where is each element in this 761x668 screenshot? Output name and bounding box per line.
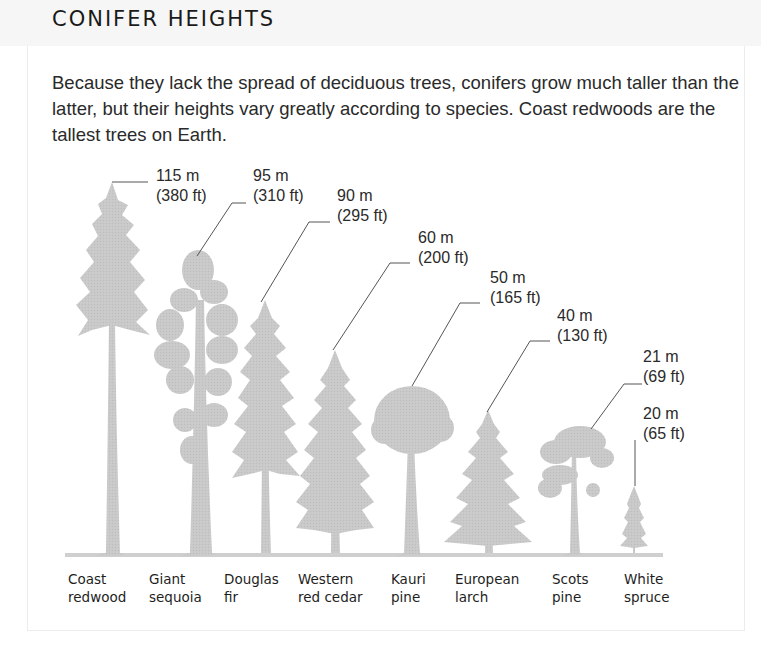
species-name-line2: fir <box>224 588 279 606</box>
tree-scots-pine-icon <box>538 426 614 556</box>
leader-scots-pine <box>591 384 642 429</box>
species-name-european-larch: European larch <box>455 570 519 606</box>
leader-european-larch <box>487 341 550 412</box>
height-feet: (65 ft) <box>643 424 685 444</box>
species-name-line1: Douglas <box>224 570 279 588</box>
height-feet: (69 ft) <box>643 367 685 387</box>
height-label-kauri-pine: 50 m (165 ft) <box>490 268 541 308</box>
height-metres: 95 m <box>253 166 304 186</box>
height-label-white-spruce: 20 m (65 ft) <box>643 404 685 444</box>
species-name-douglas-fir: Douglas fir <box>224 570 279 606</box>
species-name-line2: redwood <box>68 588 126 606</box>
species-name-line1: Giant <box>149 570 202 588</box>
species-name-western-red-cedar: Western red cedar <box>298 570 363 606</box>
tree-douglas-fir-icon <box>232 300 300 553</box>
height-metres: 21 m <box>643 347 685 367</box>
height-label-giant-sequoia: 95 m (310 ft) <box>253 166 304 206</box>
height-metres: 90 m <box>337 186 388 206</box>
species-name-line2: larch <box>455 588 519 606</box>
tree-white-spruce-icon <box>620 486 648 553</box>
species-name-line2: spruce <box>624 588 669 606</box>
height-label-douglas-fir: 90 m (295 ft) <box>337 186 388 226</box>
species-name-line1: Kauri <box>391 570 426 588</box>
tree-illustration <box>0 0 761 668</box>
tree-giant-sequoia-icon <box>154 250 238 556</box>
species-name-line1: Coast <box>68 570 126 588</box>
height-label-western-red-cedar: 60 m (200 ft) <box>418 228 469 268</box>
species-name-coast-redwood: Coast redwood <box>68 570 126 606</box>
height-feet: (130 ft) <box>557 326 608 346</box>
species-name-line1: White <box>624 570 669 588</box>
species-name-kauri-pine: Kauri pine <box>391 570 426 606</box>
height-feet: (310 ft) <box>253 186 304 206</box>
height-label-coast-redwood: 115 m (380 ft) <box>156 166 207 206</box>
species-name-line1: Western <box>298 570 363 588</box>
species-name-line2: pine <box>552 588 589 606</box>
height-label-scots-pine: 21 m (69 ft) <box>643 347 685 387</box>
height-metres: 40 m <box>557 306 608 326</box>
leader-western-red-cedar <box>333 263 410 350</box>
species-name-line2: pine <box>391 588 426 606</box>
species-name-giant-sequoia: Giant sequoia <box>149 570 202 606</box>
tree-coast-redwood-icon <box>76 182 150 556</box>
height-metres: 60 m <box>418 228 469 248</box>
height-feet: (200 ft) <box>418 248 469 268</box>
leader-douglas-fir <box>261 222 330 302</box>
tree-kauri-pine-icon <box>371 386 454 556</box>
species-name-white-spruce: White spruce <box>624 570 669 606</box>
height-feet: (165 ft) <box>490 288 541 308</box>
height-metres: 115 m <box>156 166 207 186</box>
tree-western-red-cedar-icon <box>296 350 374 553</box>
species-name-line1: European <box>455 570 519 588</box>
species-name-line2: sequoia <box>149 588 202 606</box>
height-feet: (380 ft) <box>156 186 207 206</box>
leader-giant-sequoia <box>197 203 246 256</box>
height-metres: 50 m <box>490 268 541 288</box>
species-name-line2: red cedar <box>298 588 363 606</box>
species-name-scots-pine: Scots pine <box>552 570 589 606</box>
height-metres: 20 m <box>643 404 685 424</box>
species-name-line1: Scots <box>552 570 589 588</box>
tree-european-larch-icon <box>444 410 532 553</box>
height-feet: (295 ft) <box>337 206 388 226</box>
height-label-european-larch: 40 m (130 ft) <box>557 306 608 346</box>
leader-kauri-pine <box>412 303 480 386</box>
